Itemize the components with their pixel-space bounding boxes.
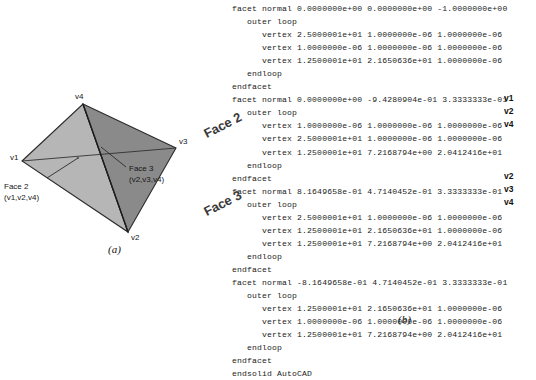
face-2-callout: Face 2 (v1,v2,v4) (4, 181, 39, 203)
subcaption-a: (a) (108, 243, 121, 255)
face-2-callout-title: Face 2 (4, 181, 39, 192)
face-2-callout-vertices: (v1,v2,v4) (4, 192, 39, 203)
face-3-callout: Face 3 (v2,v3,v4) (129, 163, 164, 185)
listing-vertex-tag-v4-b: v4 (504, 197, 513, 207)
face-3-callout-title: Face 3 (129, 163, 164, 174)
tetrahedron-wireframe (0, 0, 232, 331)
vertex-label-v1: v1 (10, 153, 18, 162)
subcaption-b: (b) (398, 313, 411, 325)
figure-b-stl-listing: facet normal 0.0000000e+00 0.0000000e+00… (232, 0, 536, 331)
listing-vertex-tag-v2-b: v2 (504, 171, 513, 181)
listing-vertex-tag-v1: v1 (504, 93, 513, 103)
figure-a-tetrahedron-diagram: v1 v2 v3 v4 Face 2 (v1,v2,v4) Face 3 (v2… (0, 0, 232, 331)
listing-vertex-tag-v4: v4 (504, 119, 513, 129)
listing-vertex-tag-v3: v3 (504, 184, 513, 194)
vertex-label-v2: v2 (131, 233, 139, 242)
face-3-callout-vertices: (v2,v3,v4) (129, 174, 164, 185)
vertex-label-v4: v4 (75, 92, 83, 101)
listing-vertex-tag-v2: v2 (504, 106, 513, 116)
stl-ascii-listing: facet normal 0.0000000e+00 0.0000000e+00… (232, 2, 507, 380)
vertex-label-v3: v3 (179, 137, 187, 146)
